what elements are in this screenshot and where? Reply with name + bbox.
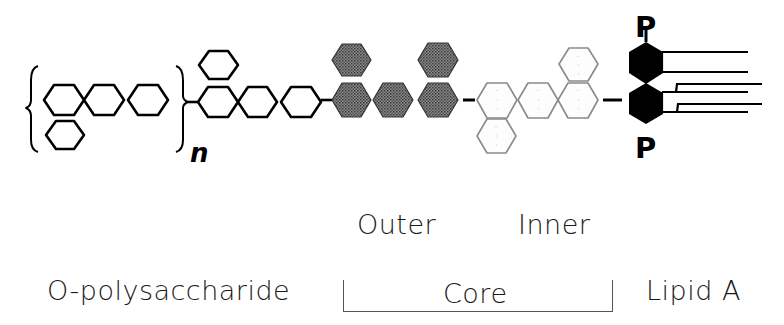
glucosamine-hexagon-bottom[interactable] (629, 83, 663, 124)
sugar-hexagon (46, 121, 84, 149)
sugar-hexagon-light (558, 83, 598, 118)
outer-core-sugars (332, 43, 458, 117)
core-label: Core (443, 280, 508, 307)
sugar-hexagon-light (518, 83, 558, 118)
o-polysaccharide-chain (188, 51, 332, 117)
inner-core-sugars (477, 48, 598, 153)
inner-core-label: Inner (518, 211, 590, 238)
lipid-a-label: Lipid A (646, 277, 741, 304)
fatty-acid-chain-branched (676, 84, 762, 92)
sugar-hexagon-dark (332, 83, 371, 117)
sugar-hexagon (199, 51, 238, 79)
sugar-hexagon-dark (418, 43, 458, 77)
sugar-hexagon (44, 85, 84, 115)
phosphate-label-bottom: P (635, 131, 656, 165)
outer-core-label: Outer (357, 211, 436, 238)
sugar-hexagon (198, 87, 238, 117)
sugar-hexagon-dark (418, 83, 458, 117)
sugar-hexagon-dark (332, 44, 371, 76)
sugar-hexagon-light (477, 83, 517, 118)
fatty-acid-chain-branched (677, 104, 762, 112)
left-brace (26, 66, 38, 152)
sugar-hexagon-light (559, 48, 598, 81)
sugar-hexagon (128, 85, 168, 115)
sugar-hexagon (238, 87, 277, 117)
sugar-hexagon (281, 87, 321, 117)
lipid-a (629, 30, 762, 124)
fatty-acid-chains (662, 52, 762, 112)
right-brace (176, 66, 188, 152)
phosphate-label-top: P (635, 10, 656, 44)
sugar-hexagon-dark (373, 83, 413, 117)
o-polysaccharide-repeat-unit (26, 66, 188, 152)
sugar-hexagon (84, 85, 124, 115)
glucosamine-hexagon-top[interactable] (629, 42, 663, 84)
repeat-count-n: n (190, 138, 209, 168)
o-polysaccharide-label: O-polysaccharide (47, 277, 290, 304)
